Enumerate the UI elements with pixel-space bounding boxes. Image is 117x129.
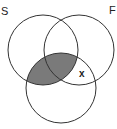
label-f: F bbox=[109, 5, 116, 16]
label-x: x bbox=[79, 69, 85, 79]
label-s: S bbox=[1, 6, 8, 17]
venn-diagram bbox=[0, 0, 117, 129]
